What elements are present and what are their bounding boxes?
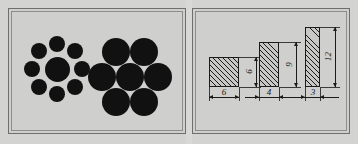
rect2-height-label-box: 9 xyxy=(282,59,296,70)
rect1-ext-bottom xyxy=(239,87,261,88)
rect2-vdim-arrow-top xyxy=(294,42,298,46)
rectangle-4-by-9 xyxy=(259,42,279,87)
equal-circle-top-right xyxy=(130,38,158,66)
rect2-ext-left xyxy=(259,87,260,101)
center-circle-small-surround xyxy=(45,57,70,82)
rect2-width-label: 4 xyxy=(267,88,272,97)
rect1-height-label-box: 6 xyxy=(242,66,256,77)
rect3-height-label-box: 12 xyxy=(321,51,335,62)
rect3-hdim-arrow-inright xyxy=(320,95,324,99)
surround-circle-6 xyxy=(31,79,47,95)
rect1-ext-right xyxy=(239,87,240,101)
rect3-vdim-arrow-top xyxy=(333,27,337,31)
rect3-hdim-arrow-inleft xyxy=(301,95,305,99)
rect2-vdim-line xyxy=(296,42,297,87)
surround-circle-7 xyxy=(24,61,40,77)
rect1-vdim-arrow-top xyxy=(254,57,258,61)
rect3-vdim-line xyxy=(335,27,336,87)
equal-circle-top-left xyxy=(102,38,130,66)
equal-circle-bottom-right xyxy=(130,88,158,116)
rectangle-3-by-12 xyxy=(305,27,320,87)
rectangle-6-by-6 xyxy=(209,57,239,87)
rect1-hdim-arrow-left xyxy=(209,95,213,99)
rect2-width-label-box: 4 xyxy=(262,87,276,98)
rect1-width-label: 6 xyxy=(222,88,227,97)
rect3-width-label-box: 3 xyxy=(306,87,320,98)
equal-circle-mid-left xyxy=(88,63,116,91)
figure-root: 6 6 9 4 xyxy=(0,0,358,144)
rect2-ext-bottom xyxy=(279,87,301,88)
rect1-width-label-box: 6 xyxy=(217,87,231,98)
surround-circle-8 xyxy=(31,43,47,59)
rect2-height-label: 9 xyxy=(285,62,294,67)
rect3-vdim-arrow-bottom xyxy=(333,83,337,87)
rect2-hdim-arrow-inright xyxy=(279,95,283,99)
equal-circle-bottom-left xyxy=(102,88,130,116)
surround-circle-2 xyxy=(67,43,83,59)
circle-illusion-panel xyxy=(8,8,186,134)
rect1-vdim-arrow-bottom xyxy=(254,83,258,87)
surround-circle-1 xyxy=(49,36,65,52)
surround-circle-4 xyxy=(67,79,83,95)
rect3-height-label: 12 xyxy=(324,52,333,61)
equal-circle-center xyxy=(116,63,144,91)
surround-circle-5 xyxy=(49,86,65,102)
rect2-hdim-arrow-inleft xyxy=(255,95,259,99)
rect3-ext-bottom xyxy=(320,87,340,88)
rect2-vdim-arrow-bottom xyxy=(294,83,298,87)
rect1-hdim-arrow-right xyxy=(235,95,239,99)
rectangle-dimension-panel: 6 6 9 4 xyxy=(192,8,350,134)
rect1-height-label: 6 xyxy=(245,69,254,74)
equal-circle-mid-right xyxy=(144,63,172,91)
rect3-width-label: 3 xyxy=(311,88,316,97)
